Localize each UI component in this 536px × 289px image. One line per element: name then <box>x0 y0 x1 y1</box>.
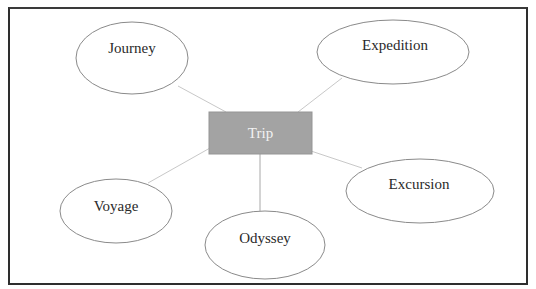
connector-journey <box>178 86 226 112</box>
node-voyage[interactable]: Voyage <box>60 179 172 243</box>
node-expedition-label: Expedition <box>362 37 428 53</box>
center-node-label: Trip <box>248 125 273 141</box>
node-journey[interactable]: Journey <box>76 22 188 94</box>
connector-voyage <box>148 148 210 183</box>
connector-excursion <box>311 151 362 168</box>
node-voyage-label: Voyage <box>94 198 139 214</box>
node-odyssey-label: Odyssey <box>239 230 291 246</box>
node-odyssey[interactable]: Odyssey <box>205 211 325 279</box>
node-expedition[interactable]: Expedition <box>317 20 469 84</box>
node-excursion[interactable]: Excursion <box>346 159 494 223</box>
node-excursion-label: Excursion <box>389 176 450 192</box>
connector-expedition <box>298 78 342 112</box>
center-node-trip[interactable]: Trip <box>209 112 312 154</box>
node-journey-label: Journey <box>108 40 156 56</box>
mind-map-canvas: Trip Journey Expedition Voyage Odyssey E… <box>0 0 536 289</box>
